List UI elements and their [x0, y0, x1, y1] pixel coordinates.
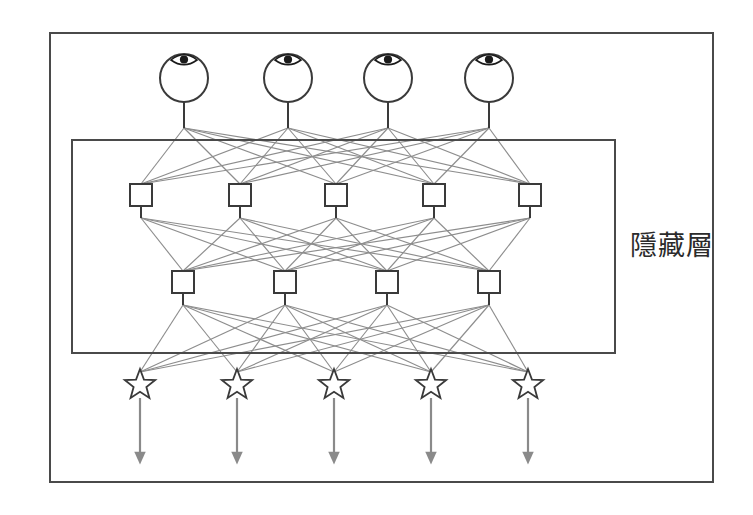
hidden-unit: [172, 271, 194, 305]
output-layer: [125, 369, 543, 398]
star-icon: [319, 369, 349, 398]
eye-pupil-icon: [384, 55, 392, 63]
eye-pupil-icon: [284, 55, 292, 63]
output-star: [319, 369, 349, 398]
hidden-unit-square: [325, 184, 347, 206]
eye-node: [364, 54, 412, 128]
star-icon: [222, 369, 252, 398]
connection-line: [237, 305, 285, 372]
hidden-layer-2: [172, 271, 500, 305]
star-icon: [416, 369, 446, 398]
connection-line: [184, 128, 530, 184]
eye-pupil-icon: [180, 55, 188, 63]
hidden-unit-square: [172, 271, 194, 293]
connection-line: [285, 305, 334, 372]
hidden-unit: [423, 184, 445, 218]
hidden-unit: [519, 184, 541, 218]
hidden-unit-square: [519, 184, 541, 206]
connection-line: [140, 305, 489, 372]
hidden-unit-square: [478, 271, 500, 293]
hidden-unit: [376, 271, 398, 305]
connection-line: [334, 305, 387, 372]
hidden-layer-1: [130, 184, 541, 218]
hidden-unit-square: [274, 271, 296, 293]
connection-line: [431, 305, 489, 372]
eye-node: [264, 54, 312, 128]
connections-group: [140, 128, 530, 372]
eye-node: [465, 54, 513, 128]
hidden-unit-square: [229, 184, 251, 206]
hidden-unit-square: [130, 184, 152, 206]
star-icon: [125, 369, 155, 398]
neural-network-diagram: 隱藏層: [0, 0, 753, 515]
hidden-unit: [325, 184, 347, 218]
connection-line: [237, 305, 489, 372]
connection-line: [183, 305, 528, 372]
connection-line: [489, 305, 528, 372]
connection-line: [336, 218, 387, 271]
hidden-unit: [274, 271, 296, 305]
hidden-unit-square: [423, 184, 445, 206]
connection-line: [285, 305, 528, 372]
eye-node: [160, 54, 208, 128]
output-star: [125, 369, 155, 398]
output-star: [513, 369, 543, 398]
hidden-unit-square: [376, 271, 398, 293]
diagram-canvas: 隱藏層: [0, 0, 753, 515]
output-arrows-group: [140, 398, 528, 458]
hidden-unit: [130, 184, 152, 218]
eye-pupil-icon: [485, 55, 493, 63]
hidden-unit: [478, 271, 500, 305]
star-icon: [513, 369, 543, 398]
hidden-unit: [229, 184, 251, 218]
output-star: [416, 369, 446, 398]
output-star: [222, 369, 252, 398]
hidden-layer-label: 隱藏層: [630, 230, 714, 261]
connection-line: [183, 218, 530, 271]
input-layer: [160, 54, 513, 128]
